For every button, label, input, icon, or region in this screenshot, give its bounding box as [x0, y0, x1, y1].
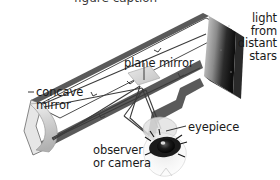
- label-observer-or-camera: observer or camera: [93, 144, 151, 169]
- star-speck: [220, 49, 221, 50]
- label-light-from-distant-stars: light from distant stars: [238, 12, 277, 62]
- aperture-opening: [204, 16, 236, 94]
- label-plane-mirror: plane mirror: [124, 57, 194, 70]
- star-speck: [214, 66, 215, 67]
- eye-highlight: [161, 141, 166, 145]
- star-speck: [228, 25, 229, 26]
- diagram-canvas: figure caption: [0, 0, 280, 180]
- label-concave-mirror: concave mirror: [36, 86, 83, 111]
- label-eyepiece: eyepiece: [188, 121, 239, 134]
- star-speck: [230, 71, 231, 72]
